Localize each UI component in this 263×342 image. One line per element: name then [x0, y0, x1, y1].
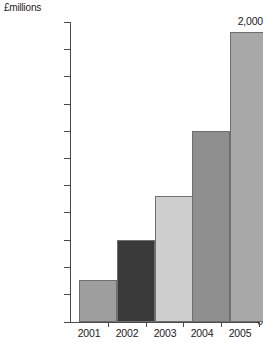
bar-2003	[155, 196, 193, 322]
plot-area	[70, 22, 259, 322]
x-axis-label-2004: 2004	[182, 327, 222, 339]
bar-2005	[230, 32, 263, 322]
x-axis-label-2002: 2002	[107, 327, 147, 339]
y-axis-tick-mark	[64, 322, 71, 323]
bar-2001	[79, 280, 117, 322]
bar-2002	[117, 240, 155, 322]
y-axis-unit-title: £millions	[4, 2, 41, 13]
x-axis-label-2003: 2003	[145, 327, 185, 339]
bar-2004	[192, 131, 230, 322]
bar-chart: £millions 2,0001,9001,8001,7001,6001,500…	[0, 0, 263, 342]
x-axis-label-2005: 2005	[220, 327, 260, 339]
x-axis-label-2001: 2001	[69, 327, 109, 339]
